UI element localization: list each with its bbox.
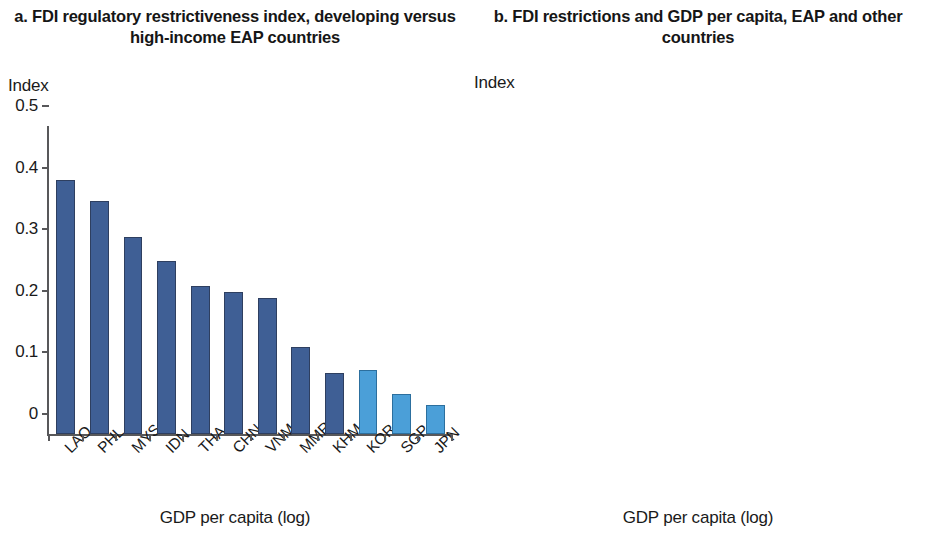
panel-b-scatter-chart: b. FDI restrictions and GDP per capita, … <box>463 0 933 536</box>
panel-b-x-axis-label: GDP per capita (log) <box>463 508 933 528</box>
panel-a-y-tick: 0.4 <box>15 158 49 178</box>
bar-chn[interactable] <box>224 292 243 434</box>
panel-a-x-tick <box>417 434 419 441</box>
panel-a-y-tick: 0.5 <box>15 96 49 116</box>
bar-mmr[interactable] <box>291 347 310 434</box>
bar-vnm[interactable] <box>258 298 277 434</box>
panel-a-y-tick: 0.2 <box>15 281 49 301</box>
bar-sgp[interactable] <box>392 394 411 434</box>
panel-a-plot-area: 00.10.20.30.40.5LAOPHLMYSIDNTHACHNVNMMMR… <box>47 126 452 436</box>
panel-a-x-axis-label: GDP per capita (log) <box>0 508 470 528</box>
bar-jpn[interactable] <box>426 405 445 434</box>
panel-a-x-tick <box>182 434 184 441</box>
panel-a-x-tick <box>115 434 117 441</box>
panel-a-x-tick <box>350 434 352 441</box>
figure-container: a. FDI regulatory restrictiveness index,… <box>0 0 933 536</box>
bar-tha[interactable] <box>191 286 210 434</box>
panel-a-x-tick <box>384 434 386 441</box>
panel-b-y-axis-unit: Index <box>474 73 515 93</box>
panel-a-x-tick <box>82 434 84 441</box>
bar-idn[interactable] <box>157 261 176 434</box>
bar-khm[interactable] <box>325 373 344 434</box>
panel-a-y-axis-unit: Index <box>8 76 49 96</box>
panel-b-title: b. FDI restrictions and GDP per capita, … <box>473 6 923 48</box>
bar-lao[interactable] <box>56 180 75 434</box>
panel-a-x-tick <box>149 434 151 441</box>
panel-a-x-tick <box>317 434 319 441</box>
panel-a-y-tick: 0.1 <box>15 342 49 362</box>
panel-a-x-tick <box>216 434 218 441</box>
panel-a-y-tick: 0 <box>29 404 49 424</box>
panel-a-x-tick <box>250 434 252 441</box>
panel-a-x-tick <box>48 434 50 441</box>
bar-kor[interactable] <box>359 370 378 434</box>
panel-a-y-tick: 0.3 <box>15 219 49 239</box>
panel-a-x-tick <box>451 434 453 441</box>
panel-a-title: a. FDI regulatory restrictiveness index,… <box>10 6 460 48</box>
panel-a-x-tick <box>283 434 285 441</box>
bar-mys[interactable] <box>124 237 143 434</box>
panel-a-bar-chart: a. FDI regulatory restrictiveness index,… <box>0 0 470 536</box>
bar-phl[interactable] <box>90 201 109 434</box>
